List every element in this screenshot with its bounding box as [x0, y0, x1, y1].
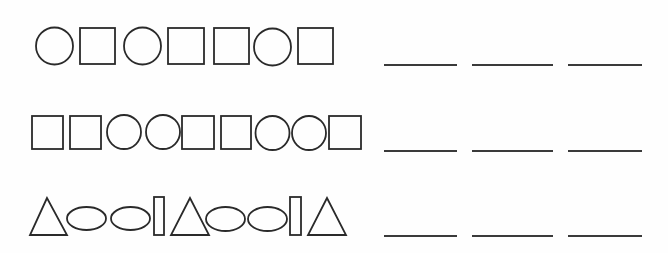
circle-shape-icon	[124, 28, 161, 65]
triangle-shape-icon	[171, 198, 209, 235]
square-shape-icon	[182, 116, 214, 149]
circle-shape-icon	[146, 115, 180, 149]
tall-rectangle-shape-icon	[290, 197, 301, 235]
ellipse-shape-icon	[206, 207, 245, 231]
pattern-row-1	[36, 28, 642, 66]
square-shape-icon	[214, 28, 249, 64]
shape-pattern-canvas	[0, 0, 668, 253]
circle-shape-icon	[107, 115, 141, 149]
triangle-shape-icon	[30, 198, 67, 235]
pattern-row-2	[32, 115, 642, 151]
square-shape-icon	[80, 28, 115, 64]
square-shape-icon	[221, 116, 251, 149]
shape-sequence	[36, 28, 333, 66]
pattern-row-3	[30, 197, 642, 236]
circle-shape-icon	[36, 28, 73, 65]
worksheet-page: Shape pattern sequences	[0, 0, 668, 253]
circle-shape-icon	[292, 116, 326, 150]
ellipse-shape-icon	[248, 207, 287, 231]
square-shape-icon	[32, 116, 63, 149]
ellipse-shape-icon	[67, 207, 106, 230]
circle-shape-icon	[254, 29, 291, 66]
tall-rectangle-shape-icon	[154, 197, 164, 235]
shape-sequence	[30, 197, 346, 235]
shape-sequence	[32, 115, 361, 150]
square-shape-icon	[70, 116, 101, 149]
square-shape-icon	[168, 28, 204, 64]
square-shape-icon	[298, 28, 333, 64]
ellipse-shape-icon	[111, 207, 150, 230]
square-shape-icon	[329, 116, 361, 149]
circle-shape-icon	[256, 116, 290, 150]
triangle-shape-icon	[308, 198, 346, 235]
